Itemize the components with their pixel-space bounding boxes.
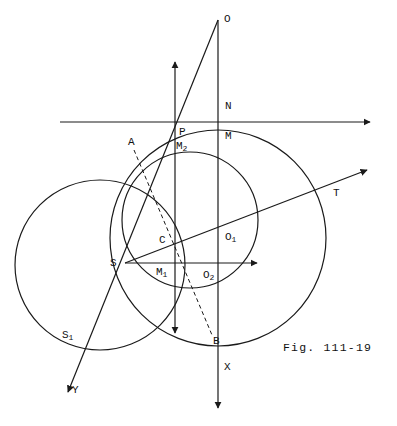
point-S1-subscript: 1 [69, 333, 74, 342]
point-O1-subscript: 1 [232, 235, 237, 244]
point-T: T [333, 188, 340, 199]
point-C: C [159, 235, 166, 246]
circle-layer [15, 130, 326, 350]
diagram-canvas [0, 0, 397, 426]
left-circle [15, 180, 185, 350]
point-N: N [225, 101, 232, 112]
point-M1: M1 [156, 267, 167, 279]
line-y-p-o [68, 20, 218, 392]
chord-a-b [134, 150, 212, 335]
point-S1: S1 [62, 330, 73, 342]
point-M1-subscript: 1 [163, 270, 168, 279]
point-Y: Y [72, 385, 79, 396]
point-O2: O2 [203, 270, 214, 282]
point-M2-subscript: 2 [183, 144, 188, 153]
point-M2: M2 [176, 141, 187, 153]
point-O: O [224, 14, 231, 25]
geometry-figure: ONMPM2ATCO1SM1O2BS1YX Fig. 111-19 [0, 0, 397, 426]
point-X: X [224, 362, 231, 373]
figure-caption: Fig. 111-19 [283, 341, 372, 354]
point-S: S [110, 258, 117, 269]
point-B: B [213, 336, 220, 347]
point-P: P [179, 127, 186, 138]
point-O2-subscript: 2 [210, 273, 215, 282]
point-O1: O1 [225, 232, 236, 244]
point-A: A [128, 137, 135, 148]
point-M: M [225, 131, 232, 142]
ray-s-t [125, 170, 367, 263]
